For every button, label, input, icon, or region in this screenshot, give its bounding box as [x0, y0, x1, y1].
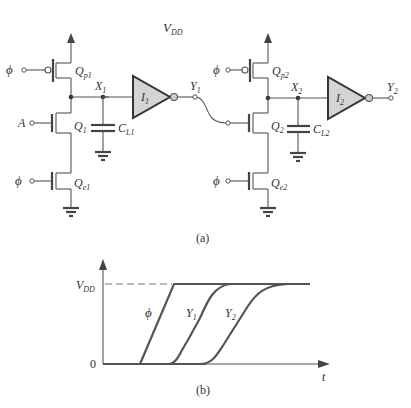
phi-input-label: ϕ — [6, 62, 13, 77]
y1-waveform — [170, 284, 230, 364]
caption-b: (b) — [196, 383, 210, 397]
vdd-tick-label: VDD — [76, 278, 95, 294]
inverter-i2: I2 Y2 — [328, 77, 398, 119]
x-axis-arrow-icon — [318, 360, 330, 368]
nmos-qe1: ϕ Qe1 — [15, 172, 90, 192]
vdd-label: VDD — [163, 20, 183, 37]
inverter-i1: I1 Y1 — [133, 76, 201, 118]
y1-label: Y1 — [190, 79, 201, 95]
y1-curve-label: Y1 — [186, 306, 197, 322]
capacitor-cl2: CL2 — [287, 98, 329, 161]
phi-input-label: ϕ — [213, 173, 220, 188]
qe1-label: Qe1 — [74, 176, 90, 192]
supply-arrow-icon — [67, 33, 75, 43]
supply-arrow-icon — [264, 33, 272, 43]
stage-1: ϕ Qp1 X1 A Q1 ϕ Qe1 — [6, 33, 201, 216]
x2-label: X2 — [290, 80, 302, 96]
timing-chart: VDD 0 ϕ Y1 Y2 t — [76, 259, 330, 384]
t-axis-label: t — [322, 370, 326, 384]
pmos-qp1: ϕ Qp1 — [6, 59, 92, 82]
phi-input-label: ϕ — [213, 62, 220, 77]
y2-curve-label: Y2 — [225, 306, 236, 322]
y2-waveform — [200, 284, 288, 364]
qp1-label: Qp1 — [75, 64, 92, 80]
caption-a: (a) — [196, 231, 209, 245]
y-axis-arrow-icon — [99, 259, 107, 270]
ground-icon — [63, 208, 79, 216]
cl2-label: CL2 — [313, 122, 329, 138]
a-input-label: A — [17, 116, 26, 130]
qe2-label: Qe2 — [271, 176, 287, 192]
x1-label: X1 — [94, 79, 106, 95]
pmos-qp2: ϕ Qp2 — [213, 59, 289, 82]
nmos-qe2: ϕ Qe2 — [213, 172, 287, 192]
qp2-label: Qp2 — [272, 64, 289, 80]
capacitor-cl1: CL1 — [91, 97, 134, 160]
nmos-q1: A Q1 — [17, 113, 87, 135]
phi-waveform — [140, 284, 310, 364]
phi-curve-label: ϕ — [145, 305, 152, 320]
cl1-label: CL1 — [118, 121, 134, 137]
circuit-figure: VDD ϕ Qp1 X1 A — [0, 0, 411, 408]
q1-label: Q1 — [74, 119, 87, 135]
zero-tick-label: 0 — [90, 357, 96, 371]
phi-input-label: ϕ — [15, 173, 22, 188]
y2-label: Y2 — [387, 80, 398, 96]
q2-label: Q2 — [271, 119, 284, 135]
ground-icon — [260, 208, 276, 216]
stage-2: ϕ Qp2 X2 Q2 ϕ Qe2 — [213, 33, 398, 216]
nmos-q2: Q2 — [226, 113, 284, 135]
y1-to-q2-wire — [197, 97, 226, 123]
